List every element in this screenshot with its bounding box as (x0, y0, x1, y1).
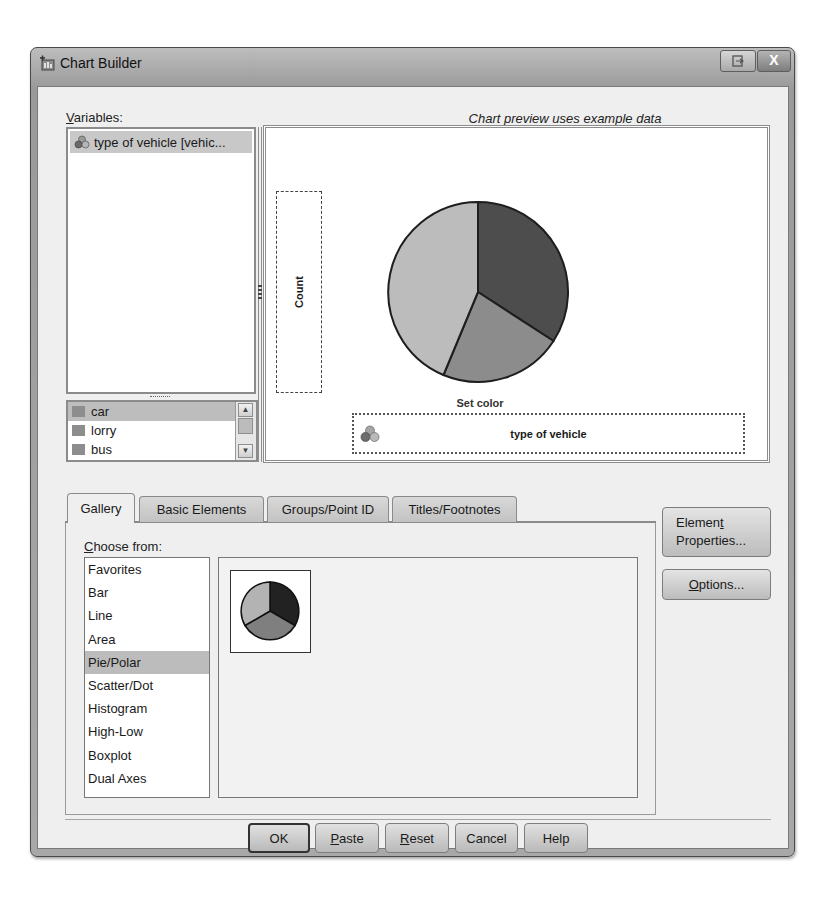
button-row-separator (65, 819, 771, 820)
chart-type-scatter-dot[interactable]: Scatter/Dot (85, 674, 209, 697)
scroll-up-button[interactable]: ▲ (238, 403, 253, 417)
category-color-swatch (72, 425, 85, 436)
category-item-car[interactable]: car (68, 402, 256, 421)
reset-text: eset (409, 831, 434, 846)
choose-mnemonic: C (84, 539, 93, 554)
restore-button[interactable] (720, 50, 756, 72)
chart-type-line[interactable]: Line (85, 604, 209, 627)
variables-label-text: ariables: (74, 110, 123, 125)
options-mnemonic: O (689, 577, 699, 592)
category-list[interactable]: car lorry bus ▲ ▼ (66, 400, 258, 462)
paste-button[interactable]: Paste (315, 823, 379, 853)
category-list-scrollbar[interactable]: ▲ ▼ (235, 402, 256, 460)
category-label: lorry (91, 423, 116, 438)
cancel-button[interactable]: Cancel (455, 823, 518, 853)
variable-item-type-of-vehicle[interactable]: type of vehicle [vehic... (70, 131, 252, 153)
variable-item-label: type of vehicle [vehic... (94, 135, 226, 150)
arrow-up-icon: ▲ (242, 405, 250, 414)
element-properties-line1: Element (676, 514, 770, 532)
category-color-swatch (72, 406, 85, 417)
variables-list[interactable]: type of vehicle [vehic... (66, 127, 256, 394)
category-color-swatch (72, 444, 85, 455)
scroll-thumb[interactable] (238, 418, 253, 434)
category-item-lorry[interactable]: lorry (68, 421, 256, 440)
tab-groups-point-id[interactable]: Groups/Point ID (267, 496, 389, 522)
variables-mnemonic: V (66, 110, 74, 125)
choose-label-text: hoose from: (93, 539, 162, 554)
paste-mnemonic: P (330, 831, 339, 846)
tab-gallery[interactable]: Gallery (67, 493, 135, 523)
chart-type-pie-polar[interactable]: Pie/Polar (85, 651, 209, 674)
chart-type-histogram[interactable]: Histogram (85, 697, 209, 720)
element-properties-button[interactable]: Element Properties... (662, 507, 771, 557)
choose-from-label: Choose from: (84, 539, 162, 554)
category-item-bus[interactable]: bus (68, 440, 256, 459)
pie-chart-preview[interactable] (385, 199, 571, 385)
options-button[interactable]: Options... (662, 569, 771, 600)
chart-type-high-low[interactable]: High-Low (85, 720, 209, 743)
reset-mnemonic: R (400, 831, 409, 846)
set-color-label: Set color (430, 397, 530, 409)
paste-text: aste (339, 831, 364, 846)
variables-label: Variables: (66, 110, 123, 125)
tab-titles-footnotes[interactable]: Titles/Footnotes (392, 496, 517, 522)
arrow-down-icon: ▼ (242, 446, 250, 455)
chart-type-area[interactable]: Area (85, 628, 209, 651)
scroll-down-button[interactable]: ▼ (238, 444, 253, 458)
ok-button[interactable]: OK (248, 823, 310, 853)
chart-type-bar[interactable]: Bar (85, 581, 209, 604)
close-icon: X (769, 52, 778, 68)
chart-type-dual-axes[interactable]: Dual Axes (85, 767, 209, 790)
element-properties-line2: Properties... (676, 532, 770, 550)
pie-chart-icon (231, 571, 310, 652)
close-button[interactable]: X (757, 50, 791, 72)
tab-basic-elements[interactable]: Basic Elements (139, 496, 264, 522)
preview-caption: Chart preview uses example data (360, 111, 770, 126)
set-color-variable-label: type of vehicle (352, 413, 745, 454)
reset-button[interactable]: Reset (385, 823, 449, 853)
restore-icon (721, 51, 755, 71)
nominal-variable-icon (74, 135, 90, 149)
y-axis-drop-label: Count (276, 191, 322, 393)
element-text: Elemen (676, 515, 720, 530)
splitter-grip-icon[interactable] (258, 285, 262, 301)
count-label: Count (293, 276, 305, 308)
element-mnemonic: t (720, 515, 724, 530)
chart-builder-app-icon (38, 54, 56, 72)
pie-chart-thumbnail[interactable] (230, 570, 311, 653)
chart-type-boxplot[interactable]: Boxplot (85, 744, 209, 767)
category-label: car (91, 404, 109, 419)
chart-type-favorites[interactable]: Favorites (85, 558, 209, 581)
window-title: Chart Builder (60, 55, 142, 71)
help-button[interactable]: Help (524, 823, 588, 853)
category-label: bus (91, 442, 112, 457)
chart-type-list[interactable]: Favorites Bar Line Area Pie/Polar Scatte… (84, 557, 210, 798)
options-text: ptions... (699, 577, 745, 592)
